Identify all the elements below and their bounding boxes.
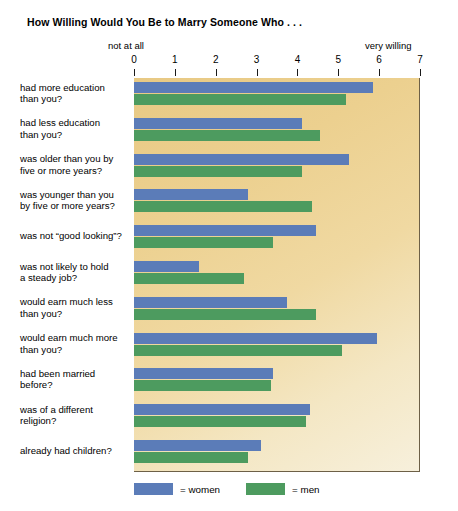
bar-women xyxy=(134,82,373,93)
x-tick-mark-4 xyxy=(297,69,298,76)
bar-women xyxy=(134,440,261,451)
x-tick-label-4: 4 xyxy=(287,54,307,65)
bar-men xyxy=(134,237,273,248)
category-label-line: would earn much more xyxy=(20,332,126,344)
x-tick-label-5: 5 xyxy=(328,54,348,65)
axis-high-label: very willing xyxy=(365,40,411,51)
category-label-line: had less education xyxy=(20,117,126,129)
category-label-line: had been married xyxy=(20,368,126,380)
category-label: already had children? xyxy=(20,445,126,457)
bar-women xyxy=(134,261,199,272)
page-title: How Willing Would You Be to Marry Someon… xyxy=(27,16,302,28)
bar-women xyxy=(134,297,287,308)
category-label-line: had more education xyxy=(20,82,126,94)
category-label: would earn much lessthan you? xyxy=(20,296,126,319)
category-label-line: by five or more years? xyxy=(20,200,126,212)
bar-men xyxy=(134,380,271,391)
axis-low-label: not at all xyxy=(108,40,144,51)
x-tick-label-3: 3 xyxy=(247,54,267,65)
bar-women xyxy=(134,189,248,200)
category-label: was of a differentreligion? xyxy=(20,404,126,427)
bar-men xyxy=(134,452,248,463)
plot-area xyxy=(134,78,420,472)
category-label: had less educationthan you? xyxy=(20,117,126,140)
x-tick-mark-0 xyxy=(134,69,135,76)
category-label-line: was not likely to hold xyxy=(20,261,126,273)
category-label-line: a steady job? xyxy=(20,272,126,284)
category-label-line: before? xyxy=(20,379,126,391)
category-label-line: than you? xyxy=(20,344,126,356)
category-label-line: would earn much less xyxy=(20,296,126,308)
category-label-line: was younger than you xyxy=(20,189,126,201)
legend: = women= men xyxy=(134,479,346,499)
category-label: would earn much morethan you? xyxy=(20,332,126,355)
bar-women xyxy=(134,225,316,236)
bar-men xyxy=(134,416,306,427)
category-label: had more educationthan you? xyxy=(20,82,126,105)
legend-swatch-women xyxy=(134,483,173,495)
bar-men xyxy=(134,309,316,320)
bar-men xyxy=(134,273,244,284)
category-label-line: than you? xyxy=(20,129,126,141)
bar-women xyxy=(134,333,377,344)
x-tick-mark-5 xyxy=(338,69,339,76)
legend-label-women: = women xyxy=(180,484,220,495)
category-label: was younger than youby five or more year… xyxy=(20,189,126,212)
category-label-line: five or more years? xyxy=(20,165,126,177)
bar-women xyxy=(134,368,273,379)
x-tick-label-2: 2 xyxy=(206,54,226,65)
category-label: was not likely to holda steady job? xyxy=(20,261,126,284)
bar-men xyxy=(134,130,320,141)
x-tick-label-0: 0 xyxy=(124,54,144,65)
x-tick-label-7: 7 xyxy=(410,54,430,65)
bar-women xyxy=(134,154,349,165)
legend-swatch-men xyxy=(246,483,285,495)
x-tick-mark-2 xyxy=(216,69,217,76)
x-tick-label-6: 6 xyxy=(369,54,389,65)
category-label: was not “good looking”? xyxy=(20,230,126,242)
category-label-line: religion? xyxy=(20,415,126,427)
category-label-line: than you? xyxy=(20,308,126,320)
bar-men xyxy=(134,94,346,105)
bar-men xyxy=(134,201,312,212)
x-tick-mark-3 xyxy=(257,69,258,76)
bar-men xyxy=(134,345,342,356)
category-label: had been marriedbefore? xyxy=(20,368,126,391)
x-axis-header: not at all very willing 01234567 xyxy=(0,40,458,78)
category-label-line: was older than you by xyxy=(20,153,126,165)
category-label-line: was of a different xyxy=(20,404,126,416)
category-label: was older than you byfive or more years? xyxy=(20,153,126,176)
y-axis-category-labels: had more educationthan you?had less educ… xyxy=(0,78,130,472)
bar-men xyxy=(134,166,302,177)
legend-item-women: = women xyxy=(134,483,220,495)
x-tick-mark-6 xyxy=(379,69,380,76)
category-label-line: already had children? xyxy=(20,445,126,457)
category-label-line: was not “good looking”? xyxy=(20,230,126,242)
legend-label-men: = men xyxy=(292,484,320,495)
bar-women xyxy=(134,404,310,415)
category-label-line: than you? xyxy=(20,93,126,105)
legend-item-men: = men xyxy=(246,483,320,495)
x-tick-mark-1 xyxy=(175,69,176,76)
x-tick-mark-7 xyxy=(420,69,421,76)
x-tick-label-1: 1 xyxy=(165,54,185,65)
bar-women xyxy=(134,118,302,129)
